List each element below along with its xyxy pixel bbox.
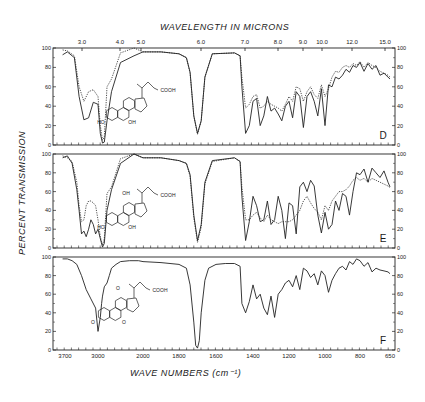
substituent-label: OH bbox=[128, 224, 136, 230]
y-tick-label-right: 40 bbox=[397, 103, 403, 109]
bottom-tick-label: 1000 bbox=[318, 353, 332, 359]
y-tick-label: 40 bbox=[45, 207, 51, 213]
panel-label: D bbox=[379, 130, 386, 141]
steroid-structure-icon bbox=[106, 187, 158, 226]
y-tick-label-right: 60 bbox=[397, 291, 403, 297]
bottom-tick-label: 1800 bbox=[172, 353, 186, 359]
y-tick-label: 80 bbox=[45, 273, 51, 279]
panel-f: 002020404060608080100100FCOOHOOO bbox=[42, 254, 406, 353]
y-tick-label-right: 100 bbox=[397, 151, 406, 157]
substituent-label: O bbox=[116, 285, 120, 291]
substituent-label: HO bbox=[97, 119, 105, 125]
y-tick-label: 0 bbox=[48, 347, 51, 353]
y-tick-label: 60 bbox=[45, 84, 51, 90]
bottom-axis: 37003000200018001600140012001000800650 bbox=[58, 353, 395, 359]
y-tick-label: 20 bbox=[45, 328, 51, 334]
top-tick-label: 5.0 bbox=[137, 39, 146, 45]
cooh-label: COOH bbox=[161, 87, 176, 93]
top-tick-label: 9.0 bbox=[299, 39, 308, 45]
panel-label: E bbox=[380, 233, 387, 244]
bottom-tick-label: 3700 bbox=[58, 353, 72, 359]
top-tick-label: 15.0 bbox=[379, 39, 391, 45]
y-tick-label: 20 bbox=[45, 226, 51, 232]
y-tick-label-right: 80 bbox=[397, 64, 403, 70]
top-tick-label: 4.0 bbox=[116, 39, 125, 45]
bottom-tick-label: 800 bbox=[355, 353, 366, 359]
bottom-tick-label: 3000 bbox=[91, 353, 105, 359]
substituent-label: OH bbox=[128, 119, 136, 125]
bottom-tick-label: 1600 bbox=[209, 353, 223, 359]
bottom-axis-title: WAVE NUMBERS (cm⁻¹) bbox=[130, 368, 241, 378]
y-tick-label: 100 bbox=[42, 151, 51, 157]
y-tick-label-right: 60 bbox=[397, 189, 403, 195]
panel-e: 002020404060608080100100ECOOHHOOHOH bbox=[42, 151, 406, 251]
top-tick-label: 10.0 bbox=[316, 39, 328, 45]
y-tick-label-right: 20 bbox=[397, 226, 403, 232]
y-tick-label-right: 40 bbox=[397, 310, 403, 316]
y-axis-title: PERCENT TRANSMISSION bbox=[17, 135, 27, 255]
bottom-tick-label: 650 bbox=[385, 353, 396, 359]
plot-frame bbox=[53, 48, 395, 145]
substituent-label: OH bbox=[122, 190, 130, 196]
y-tick-label-right: 100 bbox=[397, 45, 406, 51]
y-tick-label-right: 0 bbox=[397, 347, 400, 353]
structure-labels: COOHOOO bbox=[91, 285, 168, 325]
panel-d: 002020404060608080100100DCOOHHOOH bbox=[42, 45, 406, 148]
y-tick-label-right: 0 bbox=[397, 245, 400, 251]
steroid-structure-icon bbox=[98, 282, 150, 321]
y-tick-label: 20 bbox=[45, 123, 51, 129]
top-tick-label: 8.0 bbox=[274, 39, 283, 45]
substituent-label: O bbox=[91, 319, 95, 325]
y-tick-label: 100 bbox=[42, 45, 51, 51]
y-tick-label-right: 80 bbox=[397, 170, 403, 176]
steroid-structure-icon bbox=[106, 82, 158, 121]
spectrum-solid bbox=[63, 259, 390, 348]
top-tick-label: 6.0 bbox=[197, 39, 206, 45]
y-tick-label-right: 80 bbox=[397, 273, 403, 279]
y-tick-label-right: 0 bbox=[397, 142, 400, 148]
top-tick-label: 7.0 bbox=[241, 39, 250, 45]
y-tick-label: 0 bbox=[48, 245, 51, 251]
plot-frame bbox=[53, 257, 395, 350]
plot-frame bbox=[53, 154, 395, 248]
y-tick-label-right: 20 bbox=[397, 328, 403, 334]
bottom-tick-label: 2000 bbox=[136, 353, 150, 359]
substituent-label: HO bbox=[97, 224, 105, 230]
y-tick-label: 60 bbox=[45, 189, 51, 195]
panel-label: F bbox=[380, 335, 386, 346]
substituent-label: O bbox=[122, 319, 126, 325]
spectrum-solid bbox=[63, 154, 390, 247]
bottom-tick-label: 1400 bbox=[246, 353, 260, 359]
top-tick-label: 3.0 bbox=[78, 39, 87, 45]
y-tick-label: 100 bbox=[42, 254, 51, 260]
top-axis-title: WAVELENGTH IN MICRONS bbox=[160, 22, 289, 32]
top-axis: 3.04.05.06.07.08.09.010.012.015.0 bbox=[78, 39, 392, 51]
y-tick-label: 40 bbox=[45, 310, 51, 316]
y-tick-label-right: 60 bbox=[397, 84, 403, 90]
cooh-label: COOH bbox=[161, 192, 176, 198]
spectrum-solid bbox=[63, 52, 390, 143]
y-tick-label: 0 bbox=[48, 142, 51, 148]
y-tick-label: 80 bbox=[45, 170, 51, 176]
top-tick-label: 12.0 bbox=[346, 39, 358, 45]
y-tick-label: 60 bbox=[45, 291, 51, 297]
cooh-label: COOH bbox=[153, 287, 168, 293]
y-tick-label-right: 40 bbox=[397, 207, 403, 213]
y-tick-label: 80 bbox=[45, 64, 51, 70]
y-tick-label-right: 100 bbox=[397, 254, 406, 260]
bottom-tick-label: 1200 bbox=[282, 353, 296, 359]
spectrum-dotted bbox=[63, 48, 390, 140]
ir-spectra-figure: 3.04.05.06.07.08.09.010.012.015.00020204… bbox=[0, 0, 425, 402]
y-tick-label-right: 20 bbox=[397, 123, 403, 129]
y-tick-label: 40 bbox=[45, 103, 51, 109]
